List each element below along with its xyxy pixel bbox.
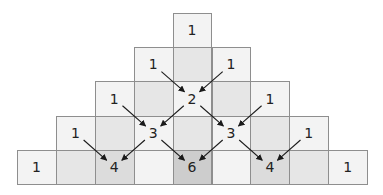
cell-value: 1 — [188, 23, 197, 37]
arrow-icon — [122, 140, 145, 160]
arrow-icon — [161, 140, 184, 160]
arrow-icon — [200, 106, 223, 126]
arrow-icon — [84, 140, 107, 160]
cell-value: 1 — [226, 57, 235, 71]
cell-value: 1 — [149, 57, 158, 71]
cell-value: 3 — [149, 126, 158, 140]
arrow-icon — [123, 106, 146, 126]
cell-value: 1 — [71, 126, 80, 140]
cell-value: 3 — [226, 126, 235, 140]
arrow-icon — [277, 140, 300, 160]
arrow-icon — [239, 140, 262, 160]
cell-value: 2 — [188, 92, 197, 106]
cell-value: 4 — [265, 160, 274, 174]
arrow-icon — [238, 106, 261, 126]
cell-value: 1 — [32, 160, 41, 174]
cell-value: 1 — [304, 126, 313, 140]
arrow-icon — [161, 106, 184, 126]
cell-value: 1 — [110, 92, 119, 106]
cell-value: 6 — [188, 160, 197, 174]
cell-value: 1 — [265, 92, 274, 106]
pascal-triangle-diagram: 111121133114641 — [0, 0, 383, 195]
cell-value: 1 — [343, 160, 352, 174]
arrow-icon — [200, 72, 223, 92]
arrow-icon — [200, 140, 223, 160]
arrow-icon — [161, 72, 184, 92]
cell-value: 4 — [110, 160, 119, 174]
